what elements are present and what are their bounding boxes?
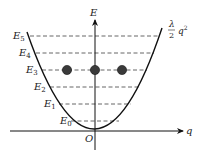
level-labels: E5 E4 E3 E2 E1 E0: [12, 30, 72, 128]
curve-label: λ 2 q2: [168, 19, 188, 40]
curve-label-variable: q2: [178, 24, 188, 36]
particle-right: [117, 65, 126, 74]
label-e5: E5: [12, 30, 25, 43]
q-axis-label: q: [186, 125, 192, 136]
label-e4: E4: [18, 47, 31, 60]
e-axis-label: E: [89, 7, 98, 18]
label-e3: E3: [25, 64, 38, 77]
curve-label-numerator: λ: [168, 19, 175, 29]
origin-label: O: [85, 133, 93, 144]
particle-left: [62, 65, 71, 74]
curve-label-denominator: 2: [169, 31, 174, 40]
particle-center: [90, 65, 99, 74]
label-e2: E2: [33, 81, 46, 94]
energy-diagram: E5 E4 E3 E2 E1 E0 E q O λ 2 q2: [0, 0, 199, 155]
label-e1: E1: [43, 98, 56, 111]
